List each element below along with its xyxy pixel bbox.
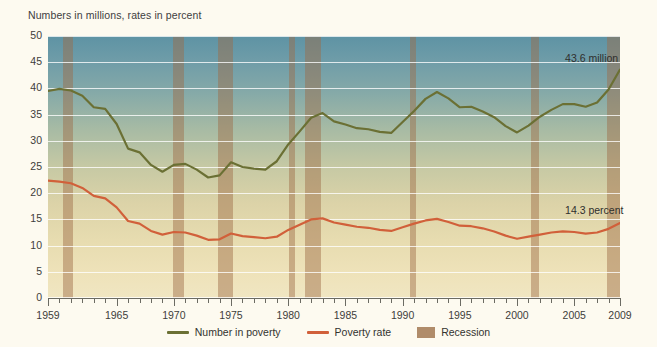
x-tick-minor <box>254 299 255 303</box>
x-tick-minor <box>71 299 72 303</box>
x-tick-major <box>288 299 289 306</box>
x-tick-minor <box>586 299 587 303</box>
x-tick-minor <box>563 299 564 303</box>
legend-swatch-line-icon <box>167 331 189 334</box>
x-tick-minor <box>197 299 198 303</box>
x-tick-minor <box>540 299 541 303</box>
x-tick-major <box>117 299 118 306</box>
y-tick-label: 20 <box>8 186 42 198</box>
x-tick-minor <box>220 299 221 303</box>
x-tick-label: 1970 <box>149 309 199 321</box>
x-tick-label: 1985 <box>320 309 370 321</box>
x-tick-minor <box>471 299 472 303</box>
data-annotation: 43.6 million <box>565 52 618 64</box>
x-tick-minor <box>162 299 163 303</box>
chart-legend: Number in povertyPoverty rateRecession <box>0 326 657 338</box>
x-tick-minor <box>140 299 141 303</box>
x-tick-minor <box>448 299 449 303</box>
x-tick-minor <box>437 299 438 303</box>
y-tick-label: 15 <box>8 212 42 224</box>
x-tick-minor <box>185 299 186 303</box>
x-tick-minor <box>151 299 152 303</box>
x-tick-minor <box>551 299 552 303</box>
x-tick-minor <box>357 299 358 303</box>
chart-title: Numbers in millions, rates in percent <box>28 9 202 21</box>
y-tick-label: 0 <box>8 291 42 303</box>
x-tick-minor <box>334 299 335 303</box>
x-tick-major <box>231 299 232 306</box>
x-tick-minor <box>208 299 209 303</box>
x-tick-major <box>174 299 175 306</box>
legend-item[interactable]: Number in poverty <box>167 326 281 338</box>
legend-item[interactable]: Recession <box>417 326 490 338</box>
x-tick-label: 1975 <box>206 309 256 321</box>
y-tick-label: 35 <box>8 108 42 120</box>
x-tick-label: 2005 <box>549 309 599 321</box>
x-tick-minor <box>265 299 266 303</box>
y-tick-label: 40 <box>8 81 42 93</box>
series-line <box>48 70 620 178</box>
x-tick-minor <box>311 299 312 303</box>
x-tick-major <box>460 299 461 306</box>
x-tick-minor <box>609 299 610 303</box>
x-tick-major <box>48 299 49 306</box>
x-tick-label: 2009 <box>595 309 645 321</box>
x-tick-major <box>345 299 346 306</box>
series-line <box>48 181 620 240</box>
x-tick-label: 1990 <box>378 309 428 321</box>
y-tick-label: 45 <box>8 55 42 67</box>
legend-swatch-line-icon <box>307 331 329 334</box>
x-tick-minor <box>82 299 83 303</box>
x-tick-label: 1980 <box>263 309 313 321</box>
data-annotation: 14.3 percent <box>565 204 623 216</box>
x-tick-minor <box>300 299 301 303</box>
x-tick-minor <box>494 299 495 303</box>
x-tick-minor <box>59 299 60 303</box>
x-tick-minor <box>105 299 106 303</box>
x-tick-minor <box>368 299 369 303</box>
x-tick-major <box>403 299 404 306</box>
y-tick-label: 25 <box>8 160 42 172</box>
x-tick-minor <box>414 299 415 303</box>
legend-label: Number in poverty <box>195 326 281 338</box>
y-tick-label: 50 <box>8 29 42 41</box>
x-tick-minor <box>391 299 392 303</box>
series-lines <box>48 36 620 298</box>
y-tick-label: 5 <box>8 265 42 277</box>
x-tick-minor <box>242 299 243 303</box>
x-tick-label: 2000 <box>492 309 542 321</box>
x-tick-label: 1959 <box>23 309 73 321</box>
x-tick-label: 1965 <box>92 309 142 321</box>
x-tick-minor <box>597 299 598 303</box>
legend-swatch-box-icon <box>417 327 435 338</box>
x-tick-minor <box>426 299 427 303</box>
x-tick-minor <box>128 299 129 303</box>
y-tick-label: 30 <box>8 134 42 146</box>
x-tick-minor <box>277 299 278 303</box>
x-tick-label: 1995 <box>435 309 485 321</box>
x-tick-minor <box>528 299 529 303</box>
poverty-chart: Numbers in millions, rates in percent 05… <box>0 0 657 347</box>
x-tick-major <box>517 299 518 306</box>
legend-label: Recession <box>441 326 490 338</box>
x-tick-minor <box>483 299 484 303</box>
x-tick-minor <box>323 299 324 303</box>
x-tick-minor <box>506 299 507 303</box>
x-tick-minor <box>380 299 381 303</box>
x-tick-major <box>620 299 621 306</box>
plot-area <box>48 36 620 298</box>
x-tick-minor <box>94 299 95 303</box>
y-tick-label: 10 <box>8 239 42 251</box>
legend-label: Poverty rate <box>335 326 392 338</box>
x-tick-major <box>574 299 575 306</box>
x-axis-line <box>48 298 621 299</box>
legend-item[interactable]: Poverty rate <box>307 326 392 338</box>
